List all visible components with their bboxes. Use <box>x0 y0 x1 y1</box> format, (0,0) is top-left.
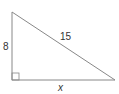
triangle-outline <box>12 12 115 80</box>
horizontal-leg-label: x <box>58 83 63 93</box>
right-angle-marker-icon <box>12 73 19 80</box>
triangle-figure <box>0 0 119 94</box>
vertical-leg-label: 8 <box>3 42 9 52</box>
hypotenuse-label: 15 <box>60 32 71 42</box>
right-triangle-diagram: 8 15 x <box>0 0 119 94</box>
